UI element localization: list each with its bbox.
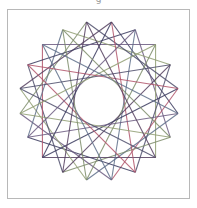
star-edge <box>86 114 178 181</box>
star-edge <box>86 22 178 89</box>
star-edge <box>20 114 112 181</box>
star-edge <box>112 88 179 180</box>
star-edge <box>20 22 87 114</box>
star-edge <box>112 22 179 114</box>
star-edge <box>20 22 112 89</box>
star-edge <box>20 88 87 180</box>
star-polygon-diagram <box>0 0 197 208</box>
